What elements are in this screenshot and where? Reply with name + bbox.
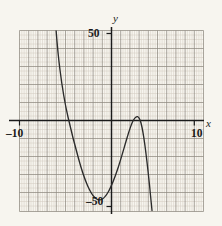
y-tick-label-negative-50: –50 xyxy=(86,196,103,208)
x-tick-label-positive-10: 10 xyxy=(191,128,203,140)
y-tick-label-positive-50: 50 xyxy=(88,28,100,40)
x-tick-label-negative-10: –10 xyxy=(6,128,23,140)
coordinate-plane-svg xyxy=(0,0,222,226)
y-axis-label: y xyxy=(113,13,118,24)
x-axis-label: x xyxy=(206,118,211,129)
graph-figure: y x 50 –50 –10 10 xyxy=(0,0,222,226)
